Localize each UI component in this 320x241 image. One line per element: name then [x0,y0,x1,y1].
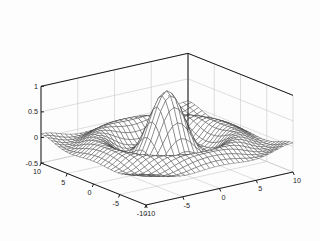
x-axis-tick [183,197,184,200]
y-tick-label: 5 [61,178,65,187]
y-tick-label: 0 [88,188,92,197]
z-tick-label: -0.5 [26,159,38,168]
y-tick-label: -5 [113,199,119,208]
x-tick-label: -5 [184,201,190,210]
z-tick-label: 1 [34,82,38,91]
z-tick-label: 0.5 [28,107,38,116]
y-axis-tick [40,163,41,166]
y-axis-tick [145,205,146,208]
x-axis-tick [293,172,294,175]
z-tick-label: 0 [34,133,38,142]
y-axis-tick [92,184,93,187]
x-tick-label: 10 [293,176,301,185]
x-axis-tick [220,189,221,192]
x-tick-label: 0 [222,193,226,202]
surface-plot: -10-505101050-5-1010.50-0.5 [0,0,320,241]
figure-canvas: -10-505101050-5-1010.50-0.5 [0,0,320,241]
y-tick-label: -10 [137,209,147,218]
y-axis-tick [119,195,120,198]
y-axis-tick [66,174,67,177]
x-axis-tick [256,180,257,183]
y-tick-label: 10 [33,167,41,176]
x-tick-label: 5 [258,184,262,193]
